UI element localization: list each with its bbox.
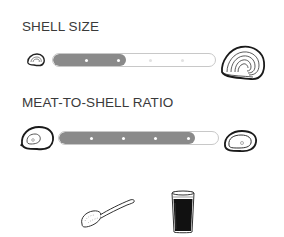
ratio-marker-1 bbox=[90, 137, 93, 140]
meat-to-shell-ratio-title: MEAT-TO-SHELL RATIO bbox=[22, 95, 173, 110]
high-meat-shell-icon bbox=[222, 128, 260, 154]
shell-size-marker-3 bbox=[149, 59, 152, 62]
shell-size-marker-4 bbox=[181, 59, 184, 62]
shell-size-marker-1 bbox=[85, 59, 88, 62]
shell-size-marker-2 bbox=[117, 59, 120, 62]
shell-size-fill bbox=[53, 54, 126, 66]
shell-size-slider[interactable] bbox=[52, 53, 216, 67]
stout-glass-icon bbox=[169, 189, 197, 235]
low-meat-shell-icon bbox=[19, 124, 57, 152]
ratio-fill bbox=[59, 132, 195, 144]
spoon-icon bbox=[78, 194, 138, 232]
small-oyster-shell-icon bbox=[26, 52, 46, 68]
ratio-marker-2 bbox=[122, 137, 125, 140]
shell-size-title: SHELL SIZE bbox=[22, 19, 99, 34]
ratio-marker-3 bbox=[154, 137, 157, 140]
large-oyster-shell-icon bbox=[219, 44, 267, 82]
meat-to-shell-ratio-slider[interactable] bbox=[58, 131, 219, 145]
ratio-marker-4 bbox=[187, 137, 190, 140]
